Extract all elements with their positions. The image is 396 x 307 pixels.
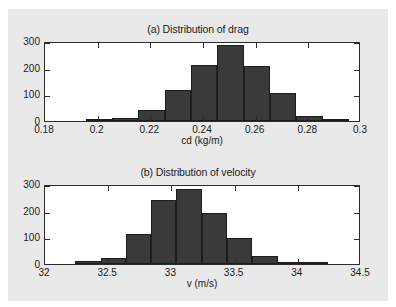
- x-axis-tick: [98, 116, 99, 121]
- histogram-bar: [323, 119, 349, 121]
- histogram-bar: [296, 116, 322, 121]
- x-axis-tick-label: 32.5: [87, 268, 127, 278]
- histogram-bar: [165, 90, 191, 121]
- x-axis-tick-label: 0.28: [287, 125, 327, 135]
- y-axis-tick: [354, 43, 359, 44]
- x-axis-tick-label: 0.3: [340, 125, 380, 135]
- x-axis-tick-label: 33.5: [214, 268, 254, 278]
- histogram-bar: [101, 258, 126, 264]
- y-axis-tick-label: 100: [8, 90, 40, 100]
- subplot-velocity-plot-area: [44, 185, 360, 265]
- y-axis-tick: [45, 213, 50, 214]
- y-axis-tick-label: 300: [8, 180, 40, 190]
- histogram-bar: [176, 189, 201, 264]
- histogram-bar: [191, 65, 217, 121]
- x-axis-tick-label: 0.22: [129, 125, 169, 135]
- histogram-bar: [227, 238, 252, 264]
- y-axis-tick: [354, 239, 359, 240]
- x-axis-tick: [171, 186, 172, 191]
- subplot-drag-bars: [45, 43, 359, 121]
- x-axis-tick: [150, 43, 151, 48]
- histogram-bar: [126, 234, 151, 264]
- x-axis-tick: [150, 116, 151, 121]
- y-axis-tick-label: 300: [8, 37, 40, 47]
- x-axis-tick-label: 34.5: [340, 268, 380, 278]
- x-axis-tick: [108, 186, 109, 191]
- x-axis-tick: [298, 259, 299, 264]
- y-axis-tick-label: 100: [8, 233, 40, 243]
- histogram-bar: [252, 256, 277, 264]
- y-axis-tick: [354, 70, 359, 71]
- y-axis-tick: [45, 239, 50, 240]
- subplot-velocity-title: (b) Distribution of velocity: [8, 166, 388, 178]
- subplot-drag: (a) Distribution of drag 01002003000.180…: [8, 15, 388, 158]
- x-axis-tick: [235, 186, 236, 191]
- x-axis-tick-label: 0.24: [182, 125, 222, 135]
- histogram-bar: [217, 45, 243, 121]
- x-axis-tick-label: 0.2: [77, 125, 117, 135]
- y-axis-tick: [354, 186, 359, 187]
- x-axis-tick: [235, 259, 236, 264]
- x-axis-tick: [203, 43, 204, 48]
- histogram-bar: [270, 93, 296, 121]
- y-axis-tick: [354, 213, 359, 214]
- x-axis-tick-label: 33: [150, 268, 190, 278]
- histogram-bar: [278, 262, 303, 264]
- y-axis-tick-label: 200: [8, 207, 40, 217]
- histogram-bar: [112, 118, 138, 121]
- y-axis-tick: [45, 96, 50, 97]
- x-axis-tick-label: 0.18: [24, 125, 64, 135]
- histogram-bar: [244, 66, 270, 121]
- x-axis-tick: [256, 43, 257, 48]
- subplot-velocity-xaxis-caption: v (m/s): [44, 278, 360, 289]
- y-axis-tick: [45, 43, 50, 44]
- subplot-drag-title: (a) Distribution of drag: [8, 23, 388, 35]
- y-axis-tick: [45, 70, 50, 71]
- figure-panel: (a) Distribution of drag 01002003000.180…: [8, 9, 388, 301]
- histogram-bar: [75, 261, 100, 264]
- subplot-velocity: (b) Distribution of velocity 01002003003…: [8, 158, 388, 301]
- y-axis-tick: [354, 96, 359, 97]
- x-axis-tick-label: 32: [24, 268, 64, 278]
- y-axis-tick-label: 200: [8, 64, 40, 74]
- histogram-bar: [151, 200, 176, 264]
- x-axis-tick: [256, 116, 257, 121]
- x-axis-tick: [308, 116, 309, 121]
- y-axis-tick: [45, 186, 50, 187]
- x-axis-tick-label: 34: [277, 268, 317, 278]
- x-axis-tick: [203, 116, 204, 121]
- subplot-drag-xaxis-caption: cd (kg/m): [44, 135, 360, 146]
- x-axis-tick: [108, 259, 109, 264]
- subplot-drag-plot-area: [44, 42, 360, 122]
- histogram-bar: [202, 213, 227, 264]
- histogram-bar: [86, 119, 112, 121]
- x-axis-tick: [98, 43, 99, 48]
- subplot-velocity-bars: [45, 186, 359, 264]
- histogram-bar: [303, 262, 328, 264]
- x-axis-tick: [308, 43, 309, 48]
- x-axis-tick: [171, 259, 172, 264]
- x-axis-tick-label: 0.26: [235, 125, 275, 135]
- x-axis-tick: [298, 186, 299, 191]
- histogram-bar: [138, 110, 164, 121]
